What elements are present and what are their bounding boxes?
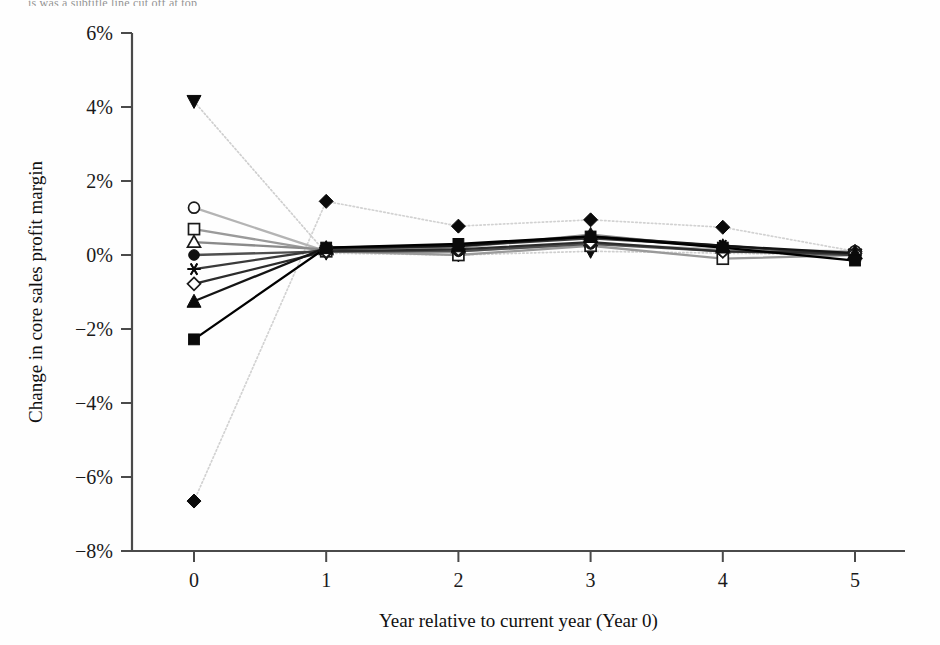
- x-tick-label: 1: [321, 569, 331, 591]
- y-tick-label: 6%: [86, 22, 113, 44]
- axes-group: [132, 33, 905, 551]
- data-point-filled-triangle: [187, 294, 201, 307]
- x-axis-title: Year relative to current year (Year 0): [379, 610, 658, 632]
- y-tick-labels: 6%4%2%0%−2%−4%−6%−8%: [75, 22, 113, 562]
- x-tick-label: 5: [850, 569, 860, 591]
- y-tick-label: −8%: [75, 540, 113, 562]
- data-point-filled-square: [850, 255, 861, 266]
- data-point-open-diamond: [188, 277, 201, 290]
- y-tick-label: −2%: [75, 318, 113, 340]
- x-tick-label: 2: [453, 569, 463, 591]
- data-point-filled-down-triangle: [187, 95, 201, 108]
- data-point-filled-diamond: [584, 213, 598, 227]
- data-point-filled-diamond: [319, 194, 333, 208]
- series-markers-group: [187, 95, 862, 508]
- data-point-filled-circle: [189, 250, 200, 261]
- data-point-open-square: [189, 224, 200, 235]
- data-point-filled-square: [189, 334, 200, 345]
- y-tick-label: −4%: [75, 392, 113, 414]
- data-point-filled-square: [585, 231, 596, 242]
- line-series-filled-down-triangle: [194, 101, 855, 255]
- x-tick-labels: 012345: [189, 569, 860, 591]
- data-point-filled-diamond: [716, 220, 730, 234]
- data-point-filled-square: [717, 242, 728, 253]
- y-tick-label: 0%: [86, 244, 113, 266]
- data-point-open-circle: [189, 202, 200, 213]
- y-tick-marks: [121, 33, 132, 551]
- x-tick-marks: [194, 551, 855, 562]
- y-tick-label: 2%: [86, 170, 113, 192]
- data-point-asterisk: [188, 263, 201, 274]
- x-tick-label: 0: [189, 569, 199, 591]
- series-lines-group: [194, 101, 855, 501]
- x-tick-label: 3: [586, 569, 596, 591]
- data-point-filled-diamond: [451, 219, 465, 233]
- data-point-filled-diamond: [187, 494, 201, 508]
- x-tick-label: 4: [718, 569, 728, 591]
- y-tick-label: 4%: [86, 96, 113, 118]
- markers-series-filled-down-triangle: [187, 95, 862, 262]
- data-point-filled-square: [321, 242, 332, 253]
- y-tick-label: −6%: [75, 466, 113, 488]
- y-axis-title: Change in core sales profit margin: [25, 161, 46, 423]
- chart-figure: is was a subtitle line cut off at top 6%…: [0, 0, 940, 645]
- line-chart: 6%4%2%0%−2%−4%−6%−8% 012345 Year relativ…: [0, 0, 940, 645]
- data-point-filled-square: [453, 239, 464, 250]
